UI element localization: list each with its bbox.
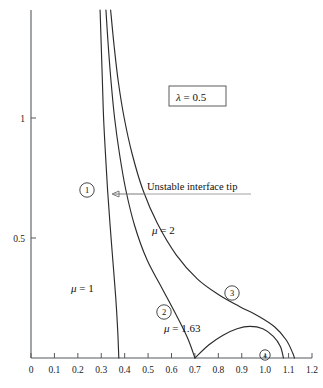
x-tick-label: 0 [29,365,34,375]
y-tick-label: 1 [20,114,25,124]
lambda-annotation: λ = 0.5 [169,86,226,106]
region-2-marker: 2 [157,305,171,319]
region-1-marker: 1 [80,183,94,197]
x-tick-label: 1.1 [283,365,295,375]
x-tick-label: 0.6 [166,365,178,375]
x-tick-label: 0.3 [95,365,107,375]
region-4-label: 4 [263,352,267,360]
unstable-tip-annotation: Unstable interface tip [112,181,251,197]
interface-shape-plot: 00.10.20.30.40.50.60.70.80.91.01.11.2 0.… [0,0,323,388]
y-tick-group: 0.51 [13,114,36,244]
x-tick-label: 0.4 [119,365,131,375]
figure-container: 00.10.20.30.40.50.60.70.80.91.01.11.2 0.… [0,0,323,388]
x-tick-label: 0.5 [142,365,154,375]
y-tick-label: 0.5 [13,234,25,244]
x-tick-label: 1.0 [259,365,271,375]
region-3-marker: 3 [225,286,239,300]
x-tick-label: 0.7 [189,365,201,375]
x-tick-label: 0.2 [72,365,84,375]
region-4-marker: 4 [260,350,270,360]
region-2-label: 2 [162,307,166,317]
x-tick-label: 0.1 [48,365,60,375]
x-tick-label: 0.8 [212,365,224,375]
mu-1-label: μ = 1 [70,282,94,294]
region-3-label: 3 [230,288,234,298]
x-tick-group: 00.10.20.30.40.50.60.70.80.91.01.11.2 [29,353,319,375]
x-tick-label: 0.9 [236,365,248,375]
mu-163-label: μ = 1.63 [163,322,201,334]
lambda-box-label: λ = 0.5 [175,91,207,103]
x-tick-label: 1.2 [306,365,318,375]
unstable-tip-label: Unstable interface tip [147,181,237,192]
region-1-label: 1 [85,185,89,195]
curve-labels: μ = 1 μ = 2 μ = 1.63 [70,224,201,334]
mu-2-label: μ = 2 [151,224,175,236]
